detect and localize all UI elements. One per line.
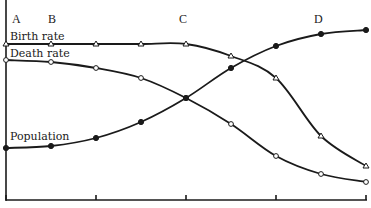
open-circle-marker (274, 154, 279, 159)
stage-label-b: B (48, 12, 56, 26)
filled-circle-marker (3, 145, 8, 150)
open-circle-marker (49, 60, 54, 65)
stage-label-c: C (179, 12, 187, 26)
filled-circle-marker (183, 95, 188, 100)
filled-circle-marker (318, 31, 323, 36)
open-circle-marker (4, 58, 9, 63)
birth-rate-label: Birth rate (10, 30, 65, 43)
open-circle-marker (319, 172, 324, 177)
open-circle-marker (94, 66, 99, 71)
filled-circle-marker (273, 43, 278, 48)
filled-circle-marker (138, 119, 143, 124)
filled-circle-marker (48, 143, 53, 148)
population-label: Population (10, 130, 69, 143)
filled-circle-marker (363, 27, 368, 32)
birth-rate-markers (3, 41, 369, 168)
death-rate-label: Death rate (10, 47, 70, 60)
demographic-transition-chart: A B C D Birth rate Death rate Population (0, 0, 371, 208)
open-circle-marker (229, 122, 234, 127)
open-circle-marker (139, 76, 144, 81)
filled-circle-marker (228, 65, 233, 70)
death-rate-curve (6, 60, 366, 182)
birth-rate-curve (6, 43, 366, 166)
stage-label-a: A (12, 12, 21, 26)
stage-label-d: D (314, 12, 323, 26)
open-circle-marker (364, 180, 369, 185)
filled-circle-marker (93, 135, 98, 140)
death-rate-markers (4, 58, 369, 185)
